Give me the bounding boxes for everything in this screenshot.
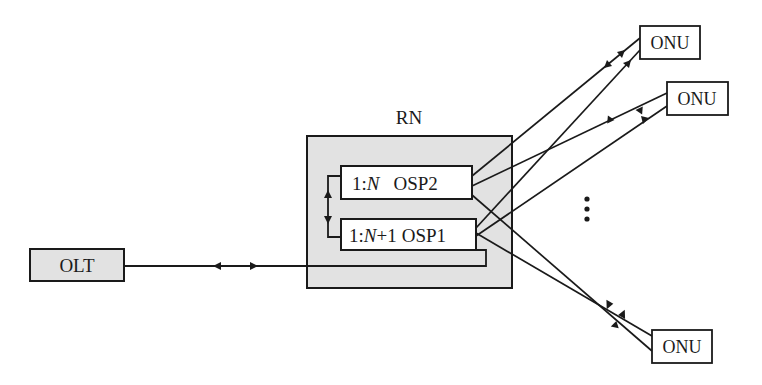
osp2-label: 1:NOSP2 xyxy=(352,173,438,194)
onu-middle-node: ONU xyxy=(667,82,728,115)
onu-middle-label: ONU xyxy=(678,89,717,109)
onu-bottom-node: ONU xyxy=(652,330,712,363)
ellipsis-icon xyxy=(584,196,589,221)
onu-top-node: ONU xyxy=(640,26,700,59)
arrow-right-icon xyxy=(250,262,258,270)
olt-node: OLT xyxy=(30,249,124,281)
osp1-node: 1:N+1OSP1 xyxy=(341,219,476,250)
diagram-canvas: RN OLT 1:NOSP2 1:N+1OSP1 xyxy=(0,0,762,385)
rn-label: RN xyxy=(396,107,423,128)
osp2-node: 1:NOSP2 xyxy=(341,166,472,199)
onu-top-label: ONU xyxy=(651,33,690,53)
arrow-left-icon xyxy=(213,262,221,270)
onu-bottom-label: ONU xyxy=(663,337,702,357)
olt-label: OLT xyxy=(59,255,95,276)
osp2-onu-top-link xyxy=(472,38,640,176)
